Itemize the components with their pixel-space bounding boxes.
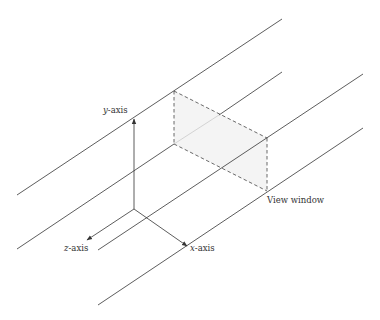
z-axis-arrow [87,209,134,240]
projection-line-2b [219,72,282,115]
z-axis-label: z-axis [64,244,88,253]
view-window-label: View window [267,196,324,205]
projection-line-3 [98,74,363,250]
x-axis-suffix: -axis [195,243,215,253]
y-axis-suffix: -axis [108,105,128,115]
y-axis-label: y-axis [103,106,128,115]
x-axis-label: x-axis [190,244,215,253]
projection-diagram [0,0,380,320]
coordinate-axes [87,119,187,246]
z-axis-suffix: -axis [68,243,88,253]
view-window-plane [174,91,267,191]
x-axis-arrow [134,209,187,246]
projection-line-2a [17,144,174,249]
projection-lines [17,19,363,305]
